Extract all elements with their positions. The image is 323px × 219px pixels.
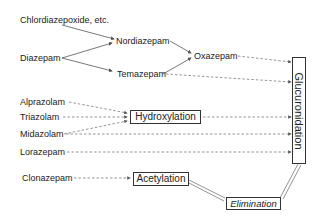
elimination-box: Elimination xyxy=(226,197,281,210)
glucuronidation-box: Glucuronidation xyxy=(292,57,306,164)
node-chlordiazepoxide: Chlordiazepoxide, etc. xyxy=(20,15,109,25)
node-temazepam: Temazepam xyxy=(117,69,166,79)
node-oxazepam: Oxazepam xyxy=(194,51,238,61)
acetylation-box: Acetylation xyxy=(133,172,189,186)
glucuronidation-label: Glucuronidation xyxy=(293,72,305,149)
node-triazolam: Triazolam xyxy=(20,112,59,122)
hydroxylation-box: Hydroxylation xyxy=(130,110,201,124)
node-lorazepam: Lorazepam xyxy=(20,147,65,157)
node-clonazepam: Clonazepam xyxy=(22,173,73,183)
node-nordiazepam: Nordiazepam xyxy=(116,36,170,46)
hydroxylation-label: Hydroxylation xyxy=(135,111,196,122)
node-midazolam: Midazolam xyxy=(20,129,64,139)
node-alprazolam: Alprazolam xyxy=(20,97,65,107)
node-diazepam: Diazepam xyxy=(20,53,61,63)
elimination-label: Elimination xyxy=(230,198,276,209)
acetylation-label: Acetylation xyxy=(137,173,186,184)
